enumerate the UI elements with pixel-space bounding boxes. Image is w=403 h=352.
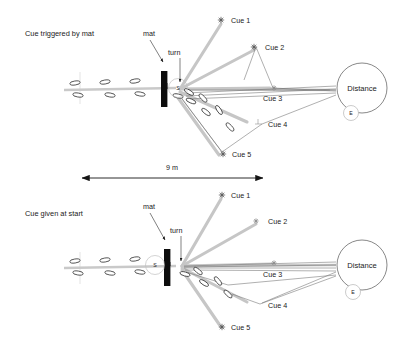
cue-rays-bottom (182, 199, 272, 327)
cue1-label-bottom: Cue 1 (231, 191, 250, 200)
cue5-marker-bottom (219, 324, 225, 330)
walking-trajectory-diagram: S Distance E Cue 1 Cue 2 Cue 3 Cue 4 Cue… (0, 0, 403, 352)
cue3-label-top: Cue 3 (263, 94, 282, 103)
panel-top: S Distance E Cue 1 Cue 2 Cue 3 Cue 4 Cue… (25, 16, 387, 159)
condition-label-top: Cue triggered by mat (25, 29, 94, 38)
cue1-marker-top (218, 17, 224, 23)
cue3-marker-top (271, 85, 276, 90)
cue2-marker-bottom (253, 218, 258, 223)
scale-label: 9 m (166, 163, 178, 172)
start-marker-top: S (176, 85, 180, 91)
scale-bar: 9 m (82, 163, 263, 178)
cue4-label-top: Cue 4 (268, 120, 287, 129)
cue5-marker-top (220, 151, 226, 157)
cue2-label-bottom: Cue 2 (268, 217, 287, 226)
mat-label-top: mat (143, 29, 155, 38)
figure-canvas: S Distance E Cue 1 Cue 2 Cue 3 Cue 4 Cue… (0, 0, 403, 352)
mat-leader-bottom (150, 213, 165, 240)
distance-label-top: Distance (347, 84, 377, 93)
cue5-label-top: Cue 5 (232, 150, 251, 159)
mat-bar-top-lower (161, 83, 167, 107)
cue4-label-bottom: Cue 4 (268, 301, 287, 310)
ray-to-cue3-top (180, 88, 270, 89)
start-marker-bottom: S (153, 262, 157, 268)
mat-bar-bottom-lower (164, 262, 170, 286)
panel-bottom: S Distance E Cue 1 Cue 2 Cue 3 Cue 4 Cue… (25, 191, 387, 332)
distance-label-bottom: Distance (347, 261, 377, 270)
cue3-label-bottom: Cue 3 (263, 270, 282, 279)
turn-label-top: turn (168, 48, 180, 57)
mat-label-bottom: mat (143, 202, 155, 211)
end-marker-top: E (349, 110, 353, 116)
ray-to-cue5-top (176, 95, 219, 155)
cue1-label-top: Cue 1 (231, 16, 250, 25)
cue2-marker-top (251, 44, 257, 50)
mat-leader-top (150, 40, 163, 62)
cue1-marker-bottom (219, 192, 225, 198)
walkway-path-top (64, 88, 176, 90)
condition-label-bottom: Cue given at start (25, 209, 83, 218)
cue5-label-bottom: Cue 5 (231, 323, 250, 332)
ray-to-cue4-top (180, 92, 247, 122)
cue3-marker-bottom (271, 260, 276, 265)
walkway-path-bottom (64, 266, 176, 268)
turn-label-bottom: turn (170, 226, 182, 235)
end-marker-bottom: E (351, 289, 355, 295)
cue2-label-top: Cue 2 (265, 43, 284, 52)
